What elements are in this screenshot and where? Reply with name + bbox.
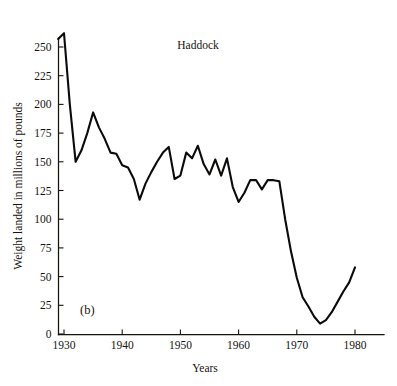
y-tick-label: 75	[40, 242, 52, 254]
y-tick-label: 225	[34, 70, 52, 82]
data-series-line	[58, 33, 355, 323]
x-tick-label: 1960	[227, 339, 250, 351]
y-tick-label: 175	[34, 127, 52, 139]
y-tick-label: 200	[34, 98, 52, 110]
x-tick-label: 1940	[111, 339, 134, 351]
x-tick-label: 1970	[285, 339, 308, 351]
chart-canvas: 193019401950196019701980 025507510012515…	[0, 0, 397, 386]
x-tick-labels-group: 193019401950196019701980	[53, 339, 367, 351]
x-axis-title: Years	[192, 362, 218, 374]
y-tick-label: 125	[34, 185, 52, 197]
y-tick-labels-group: 0255075100125150175200225250	[34, 41, 52, 340]
y-tick-label: 100	[34, 213, 52, 225]
panel-label: (b)	[80, 303, 95, 317]
tick-marks-group	[59, 47, 356, 335]
y-tick-label: 25	[40, 299, 52, 311]
y-tick-label: 0	[46, 328, 52, 340]
figure-panel: 193019401950196019701980 025507510012515…	[0, 0, 397, 386]
y-axis-title: Weight landed in millions of pounds	[12, 102, 25, 270]
y-tick-label: 150	[34, 156, 52, 168]
x-tick-label: 1930	[53, 339, 76, 351]
y-tick-label: 250	[34, 41, 52, 53]
x-tick-label: 1980	[344, 339, 367, 351]
x-tick-label: 1950	[169, 339, 192, 351]
axes-group	[59, 38, 385, 335]
y-tick-label: 50	[40, 271, 52, 283]
plot-title: Haddock	[177, 39, 219, 51]
